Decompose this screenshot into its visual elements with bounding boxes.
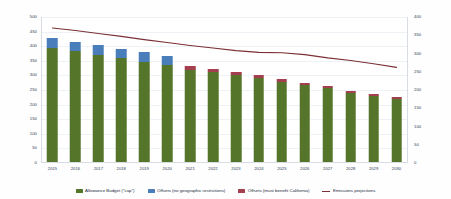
x-axis-tick-label: 2030 [392, 167, 401, 171]
bar-segment [391, 99, 402, 163]
y-axis-right-tick-label: 300 [414, 52, 421, 56]
bar-group [70, 42, 81, 163]
x-axis-tick-label: 2023 [231, 167, 240, 171]
bar-segment [322, 86, 333, 88]
x-axis-tick-label: 2024 [254, 167, 263, 171]
y-axis-right-tick-label: 100 [414, 125, 421, 129]
bar-segment [93, 45, 104, 55]
y-axis-left-tick-label: 300 [30, 73, 37, 77]
bar-segment [300, 83, 311, 85]
bar-segment [185, 66, 196, 70]
bar-group [139, 52, 150, 163]
bar-group [391, 97, 402, 163]
bar-segment [139, 52, 150, 61]
legend-label: Emissions projections [333, 189, 375, 193]
bar-segment [322, 88, 333, 163]
y-axis-left-tick-label: 500 [30, 15, 37, 19]
bar-segment [300, 85, 311, 163]
bar-segment [47, 48, 58, 163]
bar-segment [254, 75, 265, 78]
x-axis-tick-label: 2029 [369, 167, 378, 171]
bar-segment [185, 70, 196, 163]
legend-item[interactable]: Offsets (must benefit California) [238, 189, 309, 193]
bar-group [231, 72, 242, 163]
bar-segment [208, 69, 219, 72]
y-axis-left-tick-label: 350 [30, 59, 37, 63]
y-axis-right-tick-label: 250 [414, 70, 421, 74]
bar-group [185, 65, 196, 163]
bar-segment [231, 75, 242, 163]
y-axis-right-tick-label: 50 [414, 143, 419, 147]
x-axis-tick-label: 2020 [162, 167, 171, 171]
bar-segment [277, 79, 288, 81]
bar-group [47, 38, 58, 163]
chart-legend: Allowance Budget ("cap")Offsets (no geog… [0, 185, 451, 197]
y-axis-left-line [41, 17, 42, 163]
y-axis-left-tick-label: 450 [30, 30, 37, 34]
x-axis-tick-label: 2016 [71, 167, 80, 171]
bar-segment [368, 94, 379, 96]
bar-segment [70, 42, 81, 52]
y-axis-right-line [407, 17, 408, 163]
y-axis-right-tick-label: 400 [414, 15, 421, 19]
x-axis-tick-label: 2019 [140, 167, 149, 171]
bar-group [93, 45, 104, 163]
bar-series-container [41, 17, 408, 163]
bar-group [254, 75, 265, 163]
y-axis-left-tick-label: 50 [32, 146, 37, 150]
y-axis-left-tick-label: 400 [30, 44, 37, 48]
x-axis-tick-label: 2015 [48, 167, 57, 171]
x-axis-tick-label: 2017 [94, 167, 103, 171]
legend-line-marker [322, 191, 330, 192]
bar-segment [277, 82, 288, 163]
legend-item[interactable]: Offsets (no geographic restrictions) [148, 189, 226, 193]
y-axis-right-tick-label: 200 [414, 88, 421, 92]
bar-segment [391, 97, 402, 99]
bar-segment [47, 38, 58, 48]
x-axis-tick-label: 2026 [300, 167, 309, 171]
x-axis-tick-label: 2021 [185, 167, 194, 171]
bar-segment [345, 91, 356, 93]
y-axis-right-tick-label: 150 [414, 106, 421, 110]
legend-label: Offsets (must benefit California) [248, 189, 310, 193]
bar-segment [116, 58, 127, 163]
y-axis-right-tick-label: 0 [414, 161, 416, 165]
bar-segment [231, 72, 242, 75]
bar-segment [116, 49, 127, 58]
legend-item[interactable]: Allowance Budget ("cap") [76, 189, 135, 193]
bar-segment [254, 78, 265, 163]
bar-segment [162, 56, 173, 65]
bar-segment [139, 62, 150, 163]
plot-area [41, 17, 408, 163]
legend-label: Allowance Budget ("cap") [85, 189, 135, 193]
x-axis-tick-label: 2018 [117, 167, 126, 171]
legend-item[interactable]: Emissions projections [322, 189, 375, 193]
x-axis-tick-label: 2025 [277, 167, 286, 171]
legend-swatch [238, 189, 245, 192]
y-axis-left-tick-label: 200 [30, 103, 37, 107]
x-axis-line [41, 162, 408, 163]
y-axis-left-tick-label: 0 [35, 161, 37, 165]
bar-group [116, 49, 127, 163]
bar-group [345, 91, 356, 163]
x-axis-tick-label: 2028 [346, 167, 355, 171]
bar-group [300, 83, 311, 163]
bar-segment [208, 72, 219, 163]
y-axis-left-tick-label: 100 [30, 132, 37, 136]
legend-swatch [148, 189, 155, 192]
bar-group [208, 69, 219, 163]
legend-swatch [76, 189, 83, 192]
y-axis-left-tick-label: 250 [30, 88, 37, 92]
legend-label: Offsets (no geographic restrictions) [157, 189, 225, 193]
y-axis-left-tick-label: 150 [30, 117, 37, 121]
bar-segment [93, 55, 104, 163]
bar-segment [368, 96, 379, 163]
y-axis-right-tick-label: 350 [414, 33, 421, 37]
bar-group [162, 56, 173, 163]
bar-segment [162, 65, 173, 163]
bar-segment [345, 93, 356, 163]
bar-group [322, 86, 333, 163]
stacked-bar-chart: 050100150200250300350400450500 050100150… [0, 0, 451, 199]
x-axis-tick-label: 2022 [208, 167, 217, 171]
bar-group [277, 79, 288, 163]
